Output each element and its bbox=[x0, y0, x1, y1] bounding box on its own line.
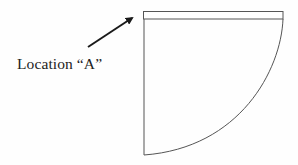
diagram-svg bbox=[0, 0, 298, 165]
diagram-canvas: Location “A” bbox=[0, 0, 298, 165]
pointer-arrow bbox=[88, 18, 132, 47]
sector-shape bbox=[144, 12, 284, 156]
location-a-label: Location “A” bbox=[17, 55, 102, 73]
top-band bbox=[144, 12, 284, 20]
curved-edge bbox=[144, 19, 283, 155]
